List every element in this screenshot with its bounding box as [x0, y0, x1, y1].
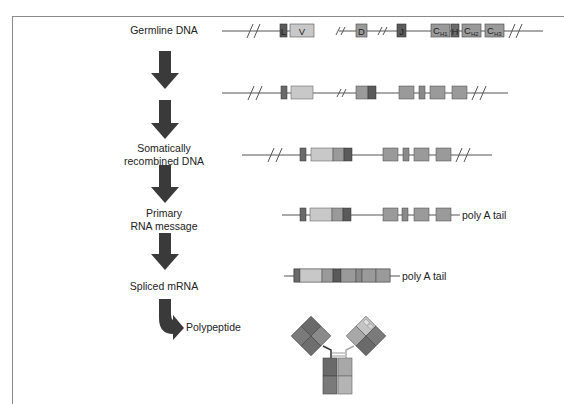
segment-L: L: [280, 24, 287, 37]
segment-CH3: [376, 269, 390, 282]
primary-rna-track: [282, 208, 460, 221]
segment-H: H: [451, 24, 459, 37]
segment-V: [300, 269, 322, 282]
segment-H: [356, 269, 362, 282]
segment-J: [343, 208, 351, 221]
antibody-molecule: [291, 316, 386, 394]
recombined-dna-track: [242, 148, 492, 162]
germline-dna-track: L V D J C H1 H C H2 C: [222, 24, 543, 38]
segment-L: [300, 148, 306, 161]
intermediate-dna-track: [222, 86, 508, 100]
svg-text:L: L: [281, 26, 286, 37]
segment-CH2: [414, 148, 429, 161]
segment-CH1: [383, 208, 398, 221]
segment-CH3: C H3: [485, 24, 504, 37]
segment-CH1: [383, 148, 398, 161]
segment-L: [300, 208, 306, 221]
segment-J: [368, 86, 376, 99]
segment-CH1: C H1: [431, 24, 450, 37]
segment-D: [332, 208, 343, 221]
segment-D: D: [356, 24, 367, 37]
segment-V: V: [290, 24, 314, 37]
segment-V: [291, 86, 313, 99]
segment-H: [402, 208, 408, 221]
arrow-intermediate-to-recombined: [151, 100, 179, 139]
svg-text:D: D: [358, 26, 365, 37]
segment-D: [333, 148, 344, 161]
arrow-germline-to-intermediate: [151, 51, 179, 89]
segment-L: [281, 86, 287, 99]
segment-J: [344, 148, 352, 161]
svg-text:H3: H3: [494, 31, 502, 37]
segment-H: [403, 148, 409, 161]
svg-text:J: J: [399, 26, 404, 37]
segment-CH3: [436, 208, 451, 221]
segment-CH1: [399, 86, 414, 99]
segment-CH1: [341, 269, 356, 282]
segment-L: [294, 269, 300, 282]
svg-text:C: C: [433, 25, 440, 36]
segment-CH2: [362, 269, 376, 282]
arrow-spliced-to-polypeptide: [159, 299, 184, 340]
segment-D: [322, 269, 333, 282]
segment-J: J: [397, 24, 406, 37]
svg-text:H1: H1: [440, 31, 448, 37]
segment-H: [419, 86, 425, 99]
segment-CH2: [430, 86, 445, 99]
svg-text:C: C: [487, 25, 494, 36]
svg-text:C: C: [464, 25, 471, 36]
segment-J: [333, 269, 341, 282]
segment-CH3: [436, 148, 451, 161]
svg-text:V: V: [299, 26, 306, 37]
svg-text:H: H: [452, 26, 459, 37]
segment-CH2: C H2: [462, 24, 481, 37]
segment-D: [356, 86, 368, 99]
arrow-recombined-to-primary-rna: [151, 165, 179, 203]
spliced-mrna-track: [284, 269, 400, 282]
antibody-left-arm: [291, 316, 331, 356]
arrow-primary-to-spliced: [151, 233, 179, 270]
segment-V: [310, 208, 332, 221]
segment-V: [311, 148, 333, 161]
segment-CH2: [414, 208, 429, 221]
segment-CH3: [452, 86, 467, 99]
antibody-right-arm: [346, 316, 386, 356]
svg-text:H2: H2: [471, 31, 479, 37]
